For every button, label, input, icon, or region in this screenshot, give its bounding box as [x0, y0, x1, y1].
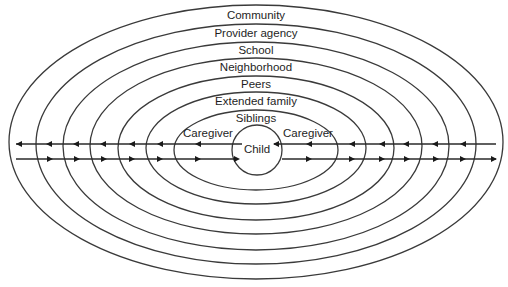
arrow-left-icon: [432, 141, 438, 147]
ecological-systems-diagram: Community Provider agency School Neighbo…: [0, 0, 508, 287]
arrow-right-icon: [195, 156, 201, 162]
arrow-right-icon: [306, 156, 312, 162]
arrow-left-icon: [195, 141, 201, 147]
arrow-right-icon: [157, 156, 163, 162]
label-caregiver-right: Caregiver: [283, 127, 333, 139]
label-child: Child: [244, 143, 270, 155]
arrow-right-icon: [129, 156, 135, 162]
arrow-right-icon: [349, 156, 355, 162]
arrow-left-icon: [157, 141, 163, 147]
label-siblings: Siblings: [236, 112, 277, 124]
arrow-right-icon: [379, 156, 385, 162]
label-extended-family: Extended family: [215, 95, 297, 107]
label-caregiver-left: Caregiver: [183, 127, 233, 139]
arrow-right-icon: [460, 156, 466, 162]
arrow-right-icon: [47, 156, 53, 162]
arrow-left-icon: [100, 141, 106, 147]
arrow-left-icon: [460, 141, 466, 147]
arrow-left-icon: [129, 141, 135, 147]
arrow-right-icon: [101, 156, 107, 162]
arrow-right-icon: [491, 156, 497, 162]
arrow-left-icon: [379, 141, 385, 147]
arrow-left-icon: [73, 141, 79, 147]
arrow-left-icon: [46, 141, 52, 147]
arrow-right-icon: [74, 156, 80, 162]
arrow-left-icon: [403, 141, 409, 147]
label-peers: Peers: [241, 78, 271, 90]
arrow-left-icon: [349, 141, 355, 147]
arrow-left-icon: [273, 141, 279, 147]
arrow-right-icon: [404, 156, 410, 162]
label-community: Community: [227, 9, 285, 21]
label-school: School: [238, 44, 273, 56]
arrow-left-icon: [16, 141, 22, 147]
label-neighborhood: Neighborhood: [220, 61, 292, 73]
arrow-left-icon: [306, 141, 312, 147]
arrow-right-icon: [433, 156, 439, 162]
label-provider-agency: Provider agency: [214, 27, 297, 39]
arrow-right-icon: [234, 156, 240, 162]
